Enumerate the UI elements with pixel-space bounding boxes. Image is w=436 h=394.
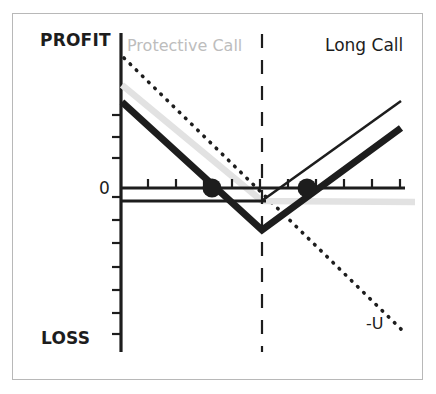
series-label-minus-u: -U xyxy=(366,316,383,332)
marker-break-even-right xyxy=(298,179,317,198)
series-label-protective-call: Protective Call xyxy=(127,38,242,54)
axis-label-profit: PROFIT xyxy=(40,32,111,49)
marker-break-even-left xyxy=(203,179,222,198)
payoff-diagram: PROFIT LOSS 0 Protective Call Long Call … xyxy=(0,0,436,394)
axis-label-loss: LOSS xyxy=(41,330,90,347)
series-label-long-call: Long Call xyxy=(325,37,403,54)
axis-label-zero: 0 xyxy=(99,180,110,197)
series-long-call-thin-leg xyxy=(263,101,401,200)
series-minus-u-dotted-line xyxy=(124,58,404,332)
